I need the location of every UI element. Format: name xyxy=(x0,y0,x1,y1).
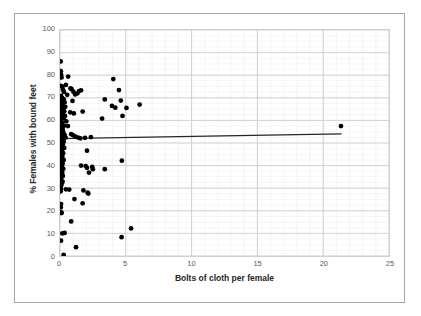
x-tick-label: 5 xyxy=(115,259,135,268)
data-points xyxy=(60,30,389,256)
y-tick-label: 100 xyxy=(33,25,55,33)
x-axis-title: Bolts of cloth per female xyxy=(59,273,390,283)
x-tick-label: 20 xyxy=(314,259,334,268)
x-tick-label: 10 xyxy=(181,259,201,268)
scatter-chart: 0102030405060708090100 0510152025 Bolts … xyxy=(0,0,421,316)
x-tick-label: 0 xyxy=(49,259,69,268)
x-tick-label: 15 xyxy=(248,259,268,268)
y-axis-title: % Females with bound feet xyxy=(28,39,38,239)
x-axis-ticks: 0510152025 xyxy=(59,259,390,271)
plot-area xyxy=(59,29,390,257)
x-tick-label: 25 xyxy=(380,259,400,268)
